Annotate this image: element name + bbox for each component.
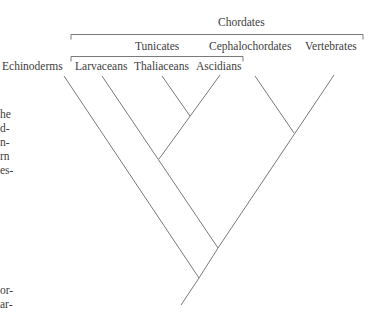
label-ascidians: Ascidians [196, 60, 241, 73]
label-cephalochordates: Cephalochordates [209, 40, 291, 53]
branch-chordates-stem [199, 248, 218, 278]
label-echinoderms: Echinoderms [2, 60, 63, 73]
branch-ascidians [159, 75, 220, 159]
branch-thaliaceans [162, 76, 190, 116]
branch-cephalochordates [255, 76, 294, 133]
chordates-bracket [71, 35, 363, 40]
branch-root [181, 278, 199, 305]
label-vertebrates: Vertebrates [305, 40, 357, 53]
label-tunicates: Tunicates [135, 40, 179, 53]
branch-echinoderms [64, 76, 199, 278]
label-larvaceans: Larvaceans [75, 60, 127, 73]
label-chordates: Chordates [218, 16, 265, 29]
label-thaliaceans: Thaliaceans [134, 60, 189, 73]
branch-vertebrates [218, 75, 334, 248]
